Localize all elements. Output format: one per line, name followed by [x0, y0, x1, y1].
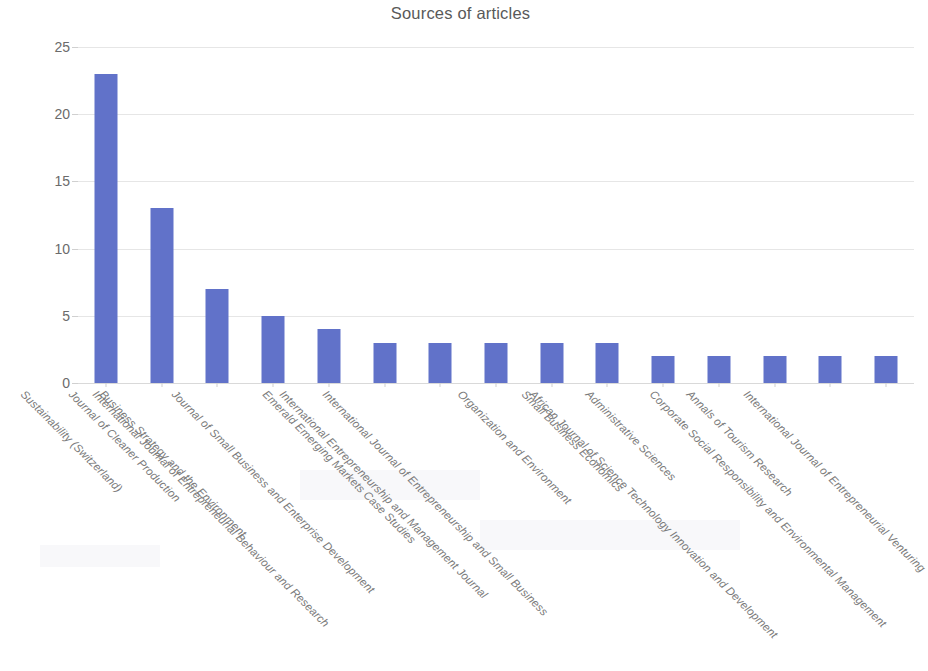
- bar[interactable]: [373, 343, 396, 383]
- bar-slot: [691, 47, 747, 383]
- y-axis: 0510152025: [24, 47, 70, 383]
- bar-slot: [189, 47, 245, 383]
- bar[interactable]: [652, 356, 675, 383]
- x-axis-tick-label: Corporate Social Responsibility and Envi…: [647, 388, 888, 629]
- bar-slot: [301, 47, 357, 383]
- bar[interactable]: [875, 356, 898, 383]
- y-axis-tick-label: 25: [30, 39, 70, 55]
- bar[interactable]: [429, 343, 452, 383]
- x-axis-tick-mark: [774, 383, 775, 387]
- bar-slot: [524, 47, 580, 383]
- x-axis-tick-mark: [830, 383, 831, 387]
- y-axis-tick-label: 20: [30, 106, 70, 122]
- bar[interactable]: [484, 343, 507, 383]
- x-axis-tick-mark: [551, 383, 552, 387]
- bar-slot: [468, 47, 524, 383]
- bar[interactable]: [819, 356, 842, 383]
- x-axis-tick-label: Organization and Environment: [456, 388, 574, 506]
- x-axis-tick-mark: [886, 383, 887, 387]
- x-axis-tick-mark: [384, 383, 385, 387]
- bar[interactable]: [763, 356, 786, 383]
- bar[interactable]: [262, 316, 285, 383]
- x-axis-tick-mark: [328, 383, 329, 387]
- bars-layer: [78, 47, 914, 383]
- bar-slot: [580, 47, 636, 383]
- x-axis-tick-mark: [440, 383, 441, 387]
- bar[interactable]: [707, 356, 730, 383]
- bar-slot: [635, 47, 691, 383]
- bar-slot: [747, 47, 803, 383]
- bar[interactable]: [206, 289, 229, 383]
- bar-slot: [357, 47, 413, 383]
- y-axis-tick-label: 0: [30, 375, 70, 391]
- x-axis-tick-mark: [105, 383, 106, 387]
- x-axis-tick-mark: [495, 383, 496, 387]
- bar-slot: [78, 47, 134, 383]
- x-axis-labels: Sustainability (Switzerland)Journal of C…: [78, 388, 914, 671]
- bar-slot: [803, 47, 859, 383]
- x-axis-tick-mark: [273, 383, 274, 387]
- bar[interactable]: [596, 343, 619, 383]
- x-axis-tick-mark: [217, 383, 218, 387]
- bar-slot: [134, 47, 190, 383]
- x-axis-tick-mark: [607, 383, 608, 387]
- bar-slot: [412, 47, 468, 383]
- bar[interactable]: [94, 74, 117, 383]
- x-axis-tick-mark: [718, 383, 719, 387]
- y-axis-tick-label: 5: [30, 308, 70, 324]
- x-axis-tick-mark: [663, 383, 664, 387]
- bar[interactable]: [540, 343, 563, 383]
- bar[interactable]: [317, 329, 340, 383]
- x-axis-tick-mark: [161, 383, 162, 387]
- chart-title: Sources of articles: [0, 4, 921, 23]
- y-axis-tick-label: 15: [30, 173, 70, 189]
- bar-slot: [245, 47, 301, 383]
- y-axis-tick-label: 10: [30, 241, 70, 257]
- x-axis-tick-label: International Entrepreneurship and Manag…: [277, 388, 490, 601]
- x-axis-tick-label: African Journal of Science Technology In…: [528, 388, 781, 641]
- bar-slot: [858, 47, 914, 383]
- bar[interactable]: [150, 208, 173, 383]
